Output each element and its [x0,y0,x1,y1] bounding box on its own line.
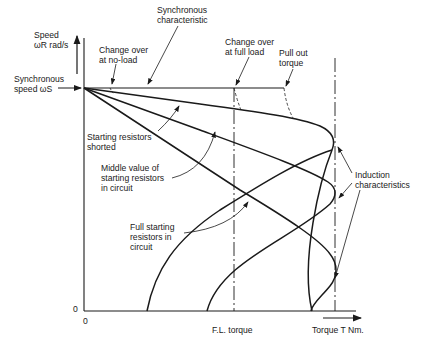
leader-full [184,202,248,233]
curve-middle-value [84,88,335,311]
induction-label-2: characteristics [355,180,410,190]
full-label-1: Full starting [130,222,174,232]
leader-pullout [286,69,293,86]
shorted-label-1: Starting resistors [87,132,151,142]
noload-label-1: Change over [99,45,148,55]
leader-induction-1 [338,147,352,173]
pullout-dashed [284,88,293,118]
leader-induction-3 [335,190,360,278]
shorted-label-2: shorted [87,142,116,152]
y-zero-label: 0 [73,304,78,314]
sync-char-label-1: Synchronous [157,5,207,15]
x-axis-label: Torque T Nm. [312,325,364,335]
changeover-fullload-dashed [234,88,241,110]
curve-resistors-shorted [84,88,334,311]
leader-induction-2 [339,183,352,198]
pullout-label-1: Pull out [279,48,308,58]
fullload-label-1: Change over [225,37,274,47]
leader-sync-char [148,26,178,84]
full-label-3: circuit [130,242,152,252]
leader-middle [172,132,215,178]
fl-torque-label: F.L. torque [212,325,253,335]
leader-noload [112,64,116,84]
pullout-label-2: torque [279,58,303,68]
y-axis-label-2: ωR rad/s [34,40,68,50]
leader-fullload [236,57,249,85]
y-axis-label-1: Speed [34,30,59,40]
middle-label-3: in circuit [101,183,133,193]
full-label-2: resistors in [130,232,172,242]
sync-speed-label-2: speed ωS [14,84,52,94]
fullload-label-2: at full load [225,47,264,57]
x-zero-label: 0 [83,316,88,326]
sync-speed-label-1: Synchronous [14,74,64,84]
sync-char-label-2: characteristic [157,15,208,25]
curve-full-starting [84,88,336,311]
noload-label-2: at no-load [99,55,137,65]
middle-label-2: starting resistors [101,173,164,183]
induction-label-1: Induction [355,170,390,180]
middle-label-1: Middle value of [101,163,159,173]
